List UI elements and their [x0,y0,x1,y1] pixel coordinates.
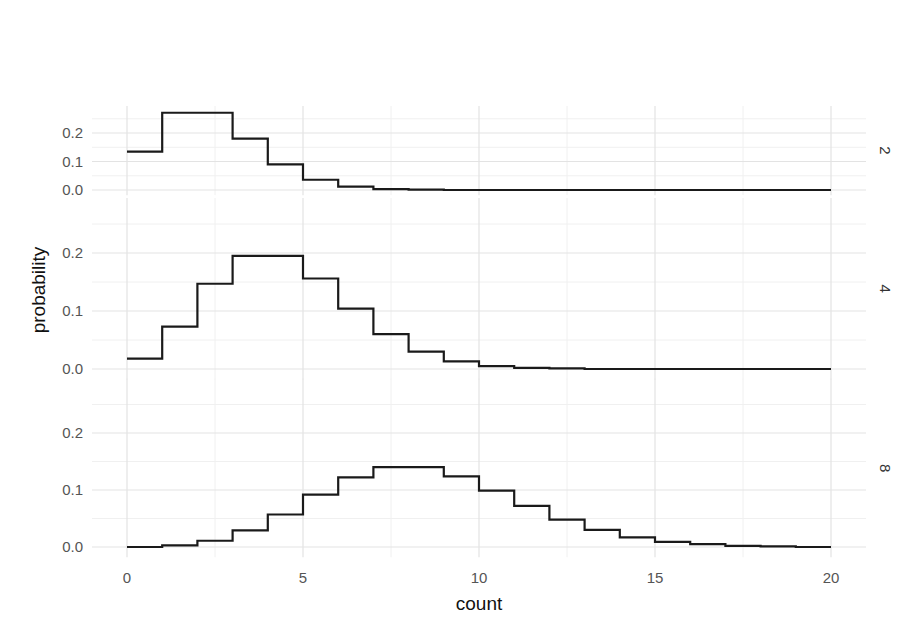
y-tick-label: 0.1 [62,153,83,170]
y-tick-label: 0.2 [62,244,83,261]
faceted-step-chart: 0.00.10.220.00.10.240.00.10.28 05101520 … [0,0,919,634]
y-tick-label: 0.2 [62,124,83,141]
x-tick-label: 20 [823,569,840,586]
facet-strip-label: 8 [877,464,894,472]
x-tick-label: 15 [647,569,664,586]
facet-strip-label: 2 [877,146,894,154]
facet-panel-4: 0.00.10.24 [62,198,894,380]
facet-panel-2: 0.00.10.22 [62,106,894,198]
y-tick-label: 0.0 [62,181,83,198]
y-tick-label: 0.1 [62,302,83,319]
x-axis: 05101520 [123,569,840,586]
y-tick-label: 0.0 [62,538,83,555]
y-tick-label: 0.2 [62,424,83,441]
facet-strip-label: 4 [877,284,894,292]
y-tick-label: 0.0 [62,360,83,377]
facet-panel-8: 0.00.10.28 [62,379,894,557]
x-tick-label: 10 [471,569,488,586]
x-tick-label: 0 [123,569,131,586]
facet-panels: 0.00.10.220.00.10.240.00.10.28 [62,106,894,557]
y-axis-title: probability [28,246,49,333]
x-tick-label: 5 [299,569,307,586]
y-tick-label: 0.1 [62,481,83,498]
x-axis-title: count [456,593,503,614]
